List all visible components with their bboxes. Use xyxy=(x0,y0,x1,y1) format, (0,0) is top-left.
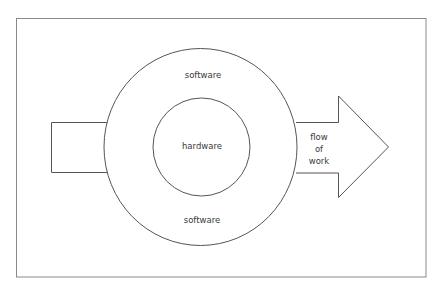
hardware-software-diagram: software hardware software flow of work xyxy=(0,0,436,292)
flow-label-line-2: of xyxy=(315,144,324,154)
hardware-label: hardware xyxy=(182,141,222,151)
software-label-top: software xyxy=(185,70,222,80)
flow-label-line-3: work xyxy=(309,156,330,166)
arrow-head xyxy=(296,96,389,198)
arrow-tail xyxy=(52,123,108,173)
flow-label-line-1: flow xyxy=(310,132,328,142)
software-label-bottom: software xyxy=(184,215,221,225)
